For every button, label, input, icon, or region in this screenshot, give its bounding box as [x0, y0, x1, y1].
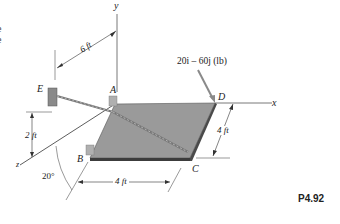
point-c-label: C — [192, 164, 199, 174]
arrowhead — [57, 63, 63, 68]
cutoff-text: e — [0, 34, 1, 45]
force-arrow — [198, 70, 213, 99]
force-label: 20i – 60j (lb) — [177, 57, 227, 67]
cutoff-text: e — [0, 23, 1, 34]
dimension-label-2ft: 2 ft — [25, 131, 37, 140]
statics-diagram: e e y x z E A D B C 20i – 60j (lb) 6 ft … — [0, 0, 340, 224]
diagram-graphics — [0, 0, 340, 224]
arrowhead — [78, 180, 83, 184]
arrowhead — [165, 180, 170, 184]
arrowhead — [229, 104, 233, 110]
angle-label: 20° — [42, 172, 55, 181]
plate-front-edge — [90, 158, 190, 161]
angle-reference-line — [66, 162, 88, 200]
x-axis-label: x — [272, 98, 276, 108]
point-b-label: B — [77, 154, 83, 164]
dimension-label-4ft-bc: 4 ft — [113, 177, 129, 186]
point-a-label: A — [110, 85, 116, 95]
arrowhead — [30, 113, 34, 118]
angle-arc — [56, 146, 72, 190]
point-d-label: D — [218, 92, 225, 102]
hinge-a — [109, 96, 117, 106]
z-axis-label: z — [16, 161, 19, 169]
arrowhead — [110, 31, 116, 37]
y-axis-label: y — [114, 1, 118, 11]
wall-bracket-e — [48, 88, 57, 106]
problem-id: P4.92 — [298, 193, 324, 204]
hinge-b — [86, 145, 94, 155]
point-e-label: E — [37, 84, 43, 94]
arrowhead — [213, 150, 217, 156]
dimension-label-4ft-cd: 4 ft — [217, 126, 229, 135]
force-arrowhead — [209, 95, 215, 103]
extension-line — [168, 168, 181, 192]
